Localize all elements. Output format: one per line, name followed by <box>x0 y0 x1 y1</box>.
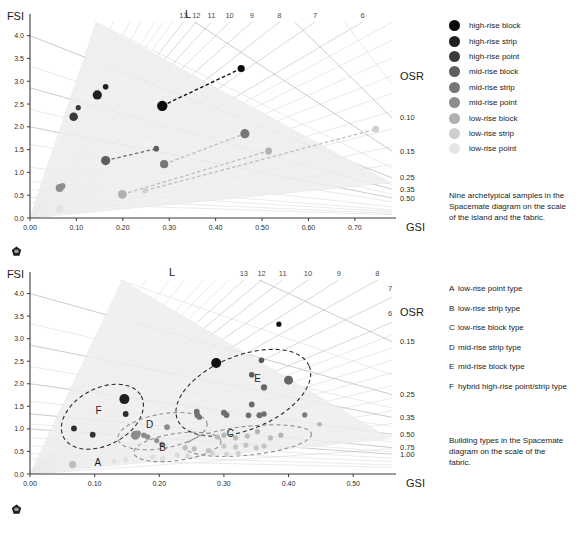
data-point <box>69 113 78 122</box>
legend-item: mid-rise point <box>449 95 581 110</box>
l-axis-title: L <box>169 266 175 278</box>
x-tick-label: 0.20 <box>116 224 130 231</box>
cluster-label: D <box>146 419 153 430</box>
y-axis-title: FSI <box>7 10 24 22</box>
legend-dot-icon <box>449 143 460 154</box>
spacemate-chart-island-fabric: 0.00.51.01.52.02.53.03.54.0FSI0.000.100.… <box>0 0 440 250</box>
y-tick-label: 0.0 <box>14 471 24 478</box>
l-axis-title: L <box>185 8 191 20</box>
data-point <box>243 443 248 448</box>
data-point <box>135 430 141 436</box>
data-point <box>123 411 129 417</box>
legend-dot-icon <box>449 20 460 31</box>
legend-dot-icon <box>449 51 460 62</box>
y-tick-label: 4.0 <box>14 290 24 297</box>
cluster-label: F <box>95 405 101 416</box>
building-type-key-item: Alow-rise point type <box>449 283 581 295</box>
data-point <box>261 384 267 390</box>
legend-dot-icon <box>449 66 460 77</box>
data-point <box>183 445 188 450</box>
page-mark-icon-bottom <box>11 504 22 515</box>
x-tick-label: 0.50 <box>255 224 269 231</box>
y-tick-label: 0.0 <box>14 215 24 222</box>
grid-layer <box>30 0 392 218</box>
building-type-letter: E <box>449 361 458 373</box>
building-type-letter: A <box>449 283 458 295</box>
data-point <box>71 426 77 432</box>
legend-label: low-rise point <box>469 144 516 153</box>
data-point <box>123 457 128 462</box>
osr-tick-label: 0.25 <box>400 390 415 399</box>
x-tick-label: 0.60 <box>302 224 316 231</box>
data-point <box>93 90 102 99</box>
l-axis-labels: 131211109876L <box>169 266 392 318</box>
legend-item: low-rise point <box>449 141 581 156</box>
data-point <box>160 456 165 461</box>
data-point <box>76 105 81 110</box>
x-tick-label: 0.00 <box>23 224 37 231</box>
data-point <box>197 414 202 419</box>
data-point <box>111 459 116 464</box>
cluster-label: A <box>95 457 102 468</box>
osr-axis-title: OSR <box>400 70 424 82</box>
data-point <box>69 461 76 468</box>
y-tick-label: 1.5 <box>14 403 24 410</box>
osr-tick-label: 0.15 <box>400 337 415 346</box>
caption-top: Nine archetypical samples in the Spacema… <box>449 190 569 224</box>
l-tick-label: 10 <box>225 11 233 20</box>
legend-item: mid-rise block <box>449 64 581 79</box>
legend-item: high-rise point <box>449 49 581 64</box>
l-tick-label: 8 <box>277 11 281 20</box>
data-point <box>103 84 109 90</box>
data-point <box>210 451 215 456</box>
data-point <box>246 413 252 419</box>
osr-axis-title: OSR <box>400 306 424 318</box>
data-point <box>236 451 241 456</box>
data-point <box>245 434 250 439</box>
l-tick-label: 9 <box>337 269 341 278</box>
x-axis-title: GSI <box>406 477 425 489</box>
building-type-letter: F <box>449 381 458 393</box>
osr-axis-labels: 0.150.250.350.500.751.00OSR <box>400 306 424 459</box>
data-point <box>59 183 65 189</box>
building-type-name: mid-rise block type <box>458 361 581 373</box>
data-point <box>157 101 167 111</box>
x-tick-label: 0.70 <box>348 224 362 231</box>
data-point <box>261 443 266 448</box>
l-tick-label: 10 <box>304 269 312 278</box>
y-tick-label: 3.5 <box>14 55 24 62</box>
legend-label: high-rise point <box>469 52 519 61</box>
l-tick-label: 7 <box>388 284 392 293</box>
building-type-name: low-rise block type <box>458 322 581 334</box>
data-point <box>90 432 96 438</box>
data-point <box>153 146 159 152</box>
x-tick-label: 0.40 <box>282 480 296 487</box>
data-point <box>278 433 283 438</box>
y-tick-label: 0.5 <box>14 192 24 199</box>
data-point <box>233 444 238 449</box>
legend-item: mid-rise strip <box>449 80 581 95</box>
data-point <box>211 358 221 368</box>
data-point <box>254 445 259 450</box>
building-type-name: low-rise strip type <box>458 303 581 315</box>
data-point <box>265 148 272 155</box>
legend-dot-icon <box>449 36 460 47</box>
building-type-letter: C <box>449 322 458 334</box>
osr-tick-label: 0.25 <box>400 173 415 182</box>
data-point <box>192 446 197 451</box>
y-axis-title: FSI <box>7 268 24 280</box>
legend-label: low-rise block <box>469 114 517 123</box>
legend-label: mid-rise strip <box>469 83 515 92</box>
data-point <box>238 65 245 72</box>
l-tick-label: 12 <box>192 11 200 20</box>
y-tick-label: 1.0 <box>14 169 24 176</box>
cluster-label: E <box>254 373 261 384</box>
osr-tick-label: 0.50 <box>400 194 415 203</box>
legend-dot-icon <box>449 82 460 93</box>
legend-label: mid-rise point <box>469 98 517 107</box>
data-point <box>119 394 129 404</box>
building-type-name: low-rise point type <box>458 283 581 295</box>
legend-dot-icon <box>449 113 460 124</box>
x-tick-label: 0.30 <box>162 224 176 231</box>
data-point <box>317 422 322 427</box>
